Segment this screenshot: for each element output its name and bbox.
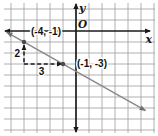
point-dot-2 (61, 62, 65, 66)
x-axis-label: x (144, 33, 152, 46)
run-value-label: 3 (39, 66, 45, 77)
y-axis-top-arrowhead (73, 3, 78, 9)
rise-up-arrowhead (22, 45, 27, 51)
plot-svg: (-4, -1) (-1, -3) 2 3 y O x (0, 0, 158, 136)
point-1-coordinate-label: (-4, -1) (31, 26, 61, 37)
coordinate-plane-figure: (-4, -1) (-1, -3) 2 3 y O x (0, 0, 158, 136)
y-axis-label: y (78, 2, 87, 15)
point-dot-1 (22, 40, 26, 44)
origin-label: O (78, 18, 88, 30)
point-2-coordinate-label: (-1, -3) (77, 58, 107, 69)
graphed-line-lower-arrowhead (139, 105, 147, 112)
rise-value-label: 2 (14, 48, 20, 59)
